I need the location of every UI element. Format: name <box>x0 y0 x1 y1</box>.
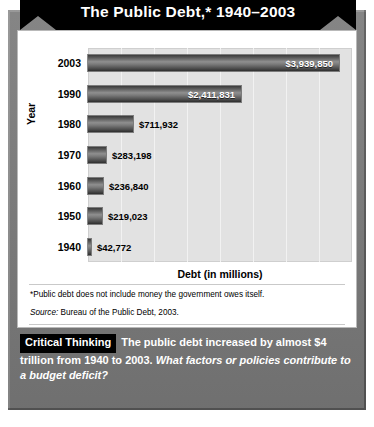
y-tick-label: 1990 <box>58 86 81 102</box>
notes-divider-bottom <box>29 324 345 325</box>
bar-row: 1960$236,840 <box>88 178 149 194</box>
bar <box>88 147 106 163</box>
footnote-text: *Public debt does not include money the … <box>30 290 264 299</box>
y-tick-label: 1940 <box>58 239 81 255</box>
y-axis-label: Year <box>25 103 37 125</box>
bar-row: 1950$219,023 <box>88 208 148 224</box>
critical-thinking-text: Critical ThinkingThe public debt increas… <box>20 334 354 384</box>
y-tick-label: 1980 <box>58 116 81 132</box>
y-tick-label: 1960 <box>58 178 81 194</box>
bar-value-label: $236,840 <box>109 181 149 192</box>
bar-row: 1970$283,198 <box>88 147 152 163</box>
y-tick-label: 2003 <box>58 55 81 71</box>
plot-region: 2003$3,939,8501990$2,411,8311980$711,932… <box>88 48 352 262</box>
bar-row: 1980$711,932 <box>88 116 178 132</box>
bar <box>88 239 91 255</box>
bar <box>88 178 103 194</box>
critical-thinking-badge: Critical Thinking <box>20 334 116 353</box>
bar-value-label: $283,198 <box>112 150 152 161</box>
source-value: Bureau of the Public Debt, 2003. <box>58 308 179 317</box>
public-debt-figure: The Public Debt,* 1940–2003 Year 2003$3,… <box>0 0 374 427</box>
bar-row: 1990$2,411,831 <box>88 86 282 102</box>
bar-value-label: $2,411,831 <box>188 89 235 100</box>
bar <box>88 116 133 132</box>
chart-plot-area: Year 2003$3,939,8501990$2,411,8311980$71… <box>17 30 357 280</box>
source-label: Source: <box>30 308 58 317</box>
chart-card: Year 2003$3,939,8501990$2,411,8311980$71… <box>17 30 357 328</box>
bar-row: 1940$42,772 <box>88 239 131 255</box>
bar-value-label: $42,772 <box>97 242 131 253</box>
bar <box>88 208 102 224</box>
y-tick-label: 1950 <box>58 208 81 224</box>
x-axis-label: Debt (in millions) <box>88 268 352 280</box>
bar-row: 2003$3,939,850 <box>88 55 374 71</box>
bar-rows: 2003$3,939,8501990$2,411,8311980$711,932… <box>88 48 352 262</box>
critical-thinking-block: Critical ThinkingThe public debt increas… <box>20 334 354 384</box>
page-title: The Public Debt,* 1940–2003 <box>81 0 296 23</box>
y-tick-label: 1970 <box>58 147 81 163</box>
bar-value-label: $711,932 <box>139 119 178 130</box>
source-line: Source: Bureau of the Public Debt, 2003. <box>30 308 179 317</box>
bar-value-label: $3,939,850 <box>285 58 333 69</box>
bar-value-label: $219,023 <box>108 211 148 222</box>
notes-divider-top <box>29 284 345 285</box>
title-ribbon: The Public Debt,* 1940–2003 <box>20 0 356 30</box>
